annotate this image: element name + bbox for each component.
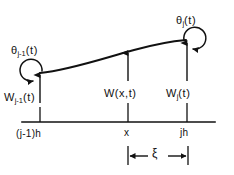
theta-jm1-subscript: j-1	[17, 49, 25, 58]
w-x-arg: (x,t)	[115, 87, 137, 99]
label-theta-j: θj(t)	[176, 11, 196, 28]
theta-jm1-arg: (t)	[26, 44, 38, 56]
w-jm1-symbol: W	[4, 91, 15, 103]
deflected-beam-curve	[40, 40, 186, 73]
rotation-arc-j-minus-1	[20, 59, 42, 81]
dimension-label-xi: ξ	[152, 147, 158, 159]
w-jm1-subscript: j-1	[15, 96, 23, 105]
beam-element-diagram: θj-1(t) θj(t) Wj-1(t) W(x,t) Wj(t) (j-1)…	[0, 0, 234, 175]
axis-label-j-minus-1-h: (j-1)h	[16, 129, 41, 139]
axis-label-jh: jh	[180, 128, 188, 138]
axis-label-x: x	[124, 128, 129, 138]
w-j-symbol: W	[166, 87, 177, 99]
label-w-j-minus-1: Wj-1(t)	[4, 88, 35, 105]
w-x-symbol: W	[104, 87, 115, 99]
label-w-j: Wj(t)	[166, 84, 191, 101]
label-theta-j-minus-1: θj-1(t)	[11, 41, 38, 58]
theta-j-arg: (t)	[184, 14, 196, 26]
label-w-x: W(x,t)	[104, 84, 137, 100]
w-j-arg: (t)	[178, 87, 190, 99]
w-jm1-arg: (t)	[23, 91, 35, 103]
